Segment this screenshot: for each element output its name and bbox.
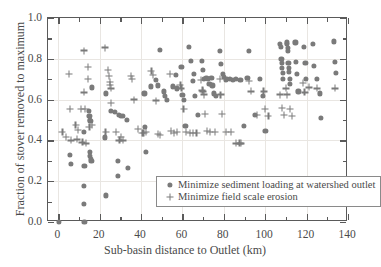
x-minor-tick-top (162, 18, 163, 22)
data-point-circle (82, 163, 87, 168)
data-point-plus (276, 91, 283, 98)
data-point-circle (157, 47, 162, 52)
circle-marker-icon (162, 179, 178, 191)
data-point-plus (313, 85, 320, 92)
data-point-circle (57, 219, 62, 224)
x-minor-tick-top (286, 18, 287, 22)
data-point-circle (89, 158, 94, 163)
data-point-circle (287, 69, 292, 74)
data-point-circle (82, 219, 87, 224)
data-point-plus (331, 85, 338, 92)
x-tick (224, 214, 225, 220)
data-point-plus (178, 85, 185, 92)
data-point-circle (199, 58, 204, 63)
data-point-plus (227, 129, 234, 136)
data-point-circle (115, 158, 120, 163)
x-minor-tick (327, 217, 328, 221)
data-point-plus (262, 105, 269, 112)
data-point-plus (289, 112, 296, 119)
data-point-circle (174, 73, 179, 78)
x-tick-label: 120 (297, 228, 314, 240)
x-tick-label: 140 (338, 228, 355, 240)
data-point-circle (263, 129, 268, 134)
data-point-plus (102, 44, 109, 51)
data-point-plus (265, 112, 272, 119)
data-point-plus (81, 89, 88, 96)
data-point-plus (284, 91, 291, 98)
y-tick (48, 181, 54, 182)
data-point-circle (280, 70, 285, 75)
y-tick-right (340, 59, 346, 60)
y-tick-label: 0.4 (22, 133, 42, 145)
data-point-plus (85, 76, 92, 83)
data-point-plus (253, 111, 260, 118)
x-minor-tick-top (327, 18, 328, 22)
data-point-circle (280, 77, 285, 82)
y-tick-right (340, 18, 346, 19)
data-point-plus (218, 110, 225, 117)
x-tick-top (182, 18, 183, 24)
legend-label-erosion: Minimize field scale erosion (178, 191, 298, 203)
legend-item-sediment: Minimize sediment loading at watershed o… (162, 179, 375, 191)
data-point-plus (278, 104, 285, 111)
x-tick-label: 0 (54, 228, 60, 240)
data-point-plus (84, 63, 91, 70)
y-minor-tick (48, 161, 52, 162)
y-tick-right (340, 140, 346, 141)
data-point-plus (233, 140, 240, 147)
data-point-circle (143, 149, 148, 154)
data-point-plus (153, 97, 160, 104)
data-point-circle (246, 48, 251, 53)
x-tick-top (100, 18, 101, 24)
x-tick (307, 214, 308, 220)
y-tick-label: 1.0 (22, 11, 42, 23)
data-point-circle (333, 70, 338, 75)
x-minor-tick (120, 217, 121, 221)
x-axis-title: Sub-basin distance to Outlet (km) (0, 243, 370, 258)
y-minor-tick (48, 79, 52, 80)
data-point-circle (186, 44, 191, 49)
data-point-plus (82, 105, 89, 112)
y-minor-tick-right (343, 79, 347, 80)
data-point-plus (119, 137, 126, 144)
data-point-circle (217, 48, 222, 53)
data-point-plus (193, 130, 200, 137)
data-point-circle (319, 115, 324, 120)
y-tick (48, 140, 54, 141)
data-point-circle (189, 58, 194, 63)
legend-plus-glyph (167, 194, 174, 201)
data-point-circle (294, 59, 299, 64)
data-point-circle (165, 97, 170, 102)
y-minor-tick-right (343, 161, 347, 162)
y-minor-tick-right (343, 120, 347, 121)
y-axis-title: Fraction of stover removed to maximum (13, 17, 28, 221)
data-point-circle (241, 124, 246, 129)
x-tick-top (348, 18, 349, 24)
data-point-circle (278, 44, 283, 49)
y-tick-label: 0.0 (22, 215, 42, 227)
x-minor-tick-top (79, 18, 80, 22)
data-point-circle (218, 61, 223, 66)
data-point-plus (143, 129, 150, 136)
data-point-circle (81, 201, 86, 206)
data-point-plus (75, 127, 82, 134)
data-point-plus (287, 105, 294, 112)
x-minor-tick (79, 217, 80, 221)
data-point-plus (167, 71, 174, 78)
data-point-circle (68, 161, 73, 166)
data-point-circle (104, 193, 109, 198)
x-tick-label: 40 (134, 228, 146, 240)
data-point-circle (285, 48, 290, 53)
x-tick (348, 214, 349, 220)
data-point-circle (295, 72, 300, 77)
data-point-circle (196, 112, 201, 117)
data-point-circle (314, 77, 319, 82)
y-tick (48, 59, 54, 60)
x-minor-tick (162, 217, 163, 221)
data-point-circle (67, 152, 72, 157)
data-point-circle (148, 84, 153, 89)
x-tick-top (58, 18, 59, 24)
data-point-plus (129, 76, 136, 83)
y-tick-right (340, 100, 346, 101)
y-minor-tick-right (343, 38, 347, 39)
